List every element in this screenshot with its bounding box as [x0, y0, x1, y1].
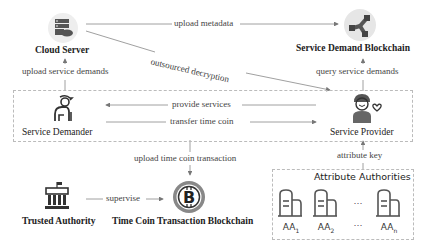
edge-label-provide-services: provide services — [170, 99, 233, 109]
attribute-authority-list: AA1 AA2 … … AAn — [276, 188, 410, 236]
attribute-authorities-label: Attribute Authorities — [314, 171, 411, 182]
aa-name: AA — [381, 222, 394, 232]
trusted-authority-label: Trusted Authority — [22, 216, 95, 226]
edge-label-upload-metadata: upload metadata — [172, 18, 235, 28]
edge-label-transfer-time-coin: transfer time coin — [168, 116, 235, 126]
ellipsis-label: … — [348, 218, 368, 228]
edge-label-query-service-demands: query service demands — [314, 66, 400, 76]
attribute-authority-item: AAn — [374, 188, 404, 234]
edge-label-attribute-key: attribute key — [335, 150, 384, 160]
server-icon — [276, 188, 306, 218]
aa-name: AA — [283, 222, 296, 232]
elderly-person-icon — [50, 94, 76, 122]
service-provider-label: Service Provider — [330, 127, 394, 137]
volunteer-person-heart-icon — [350, 92, 384, 124]
server-icon — [374, 188, 404, 218]
attribute-authority-item: AA1 — [276, 188, 306, 234]
bitcoin-coin-icon: B — [172, 180, 206, 214]
edge-label-upload-service-demands: upload service demands — [20, 66, 110, 76]
server-icon — [311, 188, 341, 218]
ellipsis: … — [348, 196, 368, 206]
edge-label-upload-time-coin-transaction: upload time coin transaction — [132, 153, 238, 163]
aa-name: AA — [318, 222, 331, 232]
aa-subscript: 2 — [330, 227, 334, 234]
service-demander-label: Service Demander — [22, 127, 92, 137]
svg-text:B: B — [183, 188, 195, 207]
cloud-server-label: Cloud Server — [35, 45, 89, 55]
edge-label-supervise: supervise — [104, 193, 142, 203]
cloud-server-icon — [48, 13, 78, 43]
government-building-icon — [42, 181, 72, 213]
blockchain-network-icon — [344, 9, 376, 41]
aa-subscript: n — [393, 227, 397, 234]
time-coin-blockchain-label: Time Coin Transaction Blockchain — [112, 216, 253, 226]
aa-subscript: 1 — [295, 227, 299, 234]
attribute-authority-item: AA2 — [311, 188, 341, 234]
service-demand-blockchain-label: Service Demand Blockchain — [296, 43, 410, 53]
